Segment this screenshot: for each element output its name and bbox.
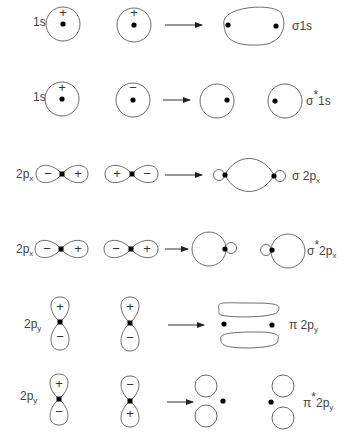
mo-label: σ 2px [292,169,320,185]
svg-text:−: − [44,166,52,181]
mo-label: π 2py [289,318,318,334]
p-orbital-1: + − [50,374,68,425]
svg-text:−: − [126,330,134,345]
mo-label: σ*2px [307,238,336,260]
nucleus-dot [131,22,136,27]
ao-label: 2py [24,317,41,333]
mo-label: σ*1s [306,88,331,108]
ao-label: 2px [16,167,33,183]
ao-label: 2py [20,389,37,405]
svg-text:+: + [113,166,121,181]
nucleus-dot [60,21,65,26]
phase-sign: + [59,5,67,20]
phase-sign: + [130,5,138,20]
phase-sign: − [129,80,137,95]
atomic-orbital-1: + [46,5,80,41]
molecular-orbital [224,7,284,45]
row-pi-star-2py: 2py + − − + π*2py [20,374,333,429]
svg-text:−: − [55,404,63,419]
atomic-orbital-2: + [117,5,151,42]
phase-sign: + [58,80,66,95]
molecular-orbital-lobe-1 [200,84,234,118]
ao-label: 1s [33,15,46,29]
row-sigma-star-1s: 1s + − σ*1s [33,80,331,118]
p-orbital-1: − + [36,165,88,182]
atomic-orbital-1: + [45,80,79,116]
svg-text:+: + [126,299,134,314]
svg-text:−: − [112,241,120,256]
svg-text:+: + [55,376,63,391]
svg-text:−: − [143,166,151,181]
svg-text:+: + [74,241,82,256]
atomic-orbital-2: − [116,80,150,117]
svg-text:−: − [56,329,64,344]
row-sigma-star-2px: 2px − + − + σ*2px [16,232,336,268]
molecular-orbital-lobe-1 [192,232,237,266]
molecular-orbital-pair-1 [195,375,226,427]
mo-label: π*2py [303,390,333,412]
row-sigma-2px: 2px − + + − σ 2px [16,159,320,192]
molecular-orbital [218,303,279,348]
molecular-orbital-pair-2 [268,375,294,429]
svg-text:+: + [143,241,151,256]
molecular-orbital-lobe-2 [268,84,302,118]
svg-text:−: − [126,377,134,392]
molecular-orbital-lobe-2 [261,234,306,268]
mo-label: σ1s [292,19,312,33]
p-orbital-1: − + [35,240,88,257]
p-orbital-2: − + [121,376,139,427]
svg-text:+: + [74,166,82,181]
svg-text:+: + [126,406,134,421]
row-sigma-1s: 1s + + σ1s [33,5,312,45]
p-orbital-1: + − [51,297,69,350]
svg-text:−: − [43,241,51,256]
ao-label: 1s [33,90,46,104]
p-orbital-2: − + [104,240,158,257]
p-orbital-2: + − [105,165,158,182]
ao-label: 2px [16,242,33,258]
row-pi-2py: 2py + − + − π 2py [24,297,318,351]
p-orbital-2: + − [121,297,139,351]
mo-diagram: 1s + + σ1s 1s + − [0,0,351,438]
molecular-orbital [214,159,286,192]
svg-text:+: + [56,299,64,314]
